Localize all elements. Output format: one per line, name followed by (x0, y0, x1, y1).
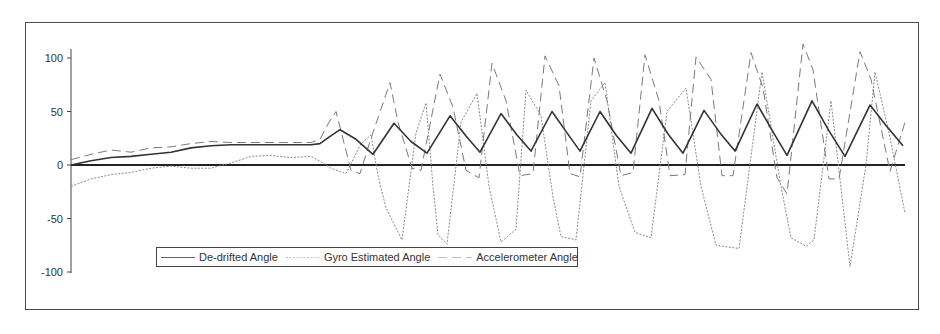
y-tick-label: 0 (57, 159, 63, 171)
y-tick-label: 50 (51, 106, 63, 118)
y-tick-label: -50 (47, 213, 63, 225)
legend-item-gyro: Gyro Estimated Angle (286, 251, 430, 263)
legend-solid-line-icon (161, 256, 195, 258)
legend-dashed-line-icon (438, 256, 472, 258)
legend-label: De-drifted Angle (199, 251, 278, 263)
series-accelerometer-angle (71, 44, 905, 194)
legend-label: Accelerometer Angle (476, 251, 578, 263)
y-axis-ticks: 100500-50-100 (41, 52, 71, 278)
y-tick-label: 100 (45, 52, 63, 64)
legend-item-accelerometer: Accelerometer Angle (438, 251, 578, 263)
series-gyro-estimated-angle (71, 72, 905, 267)
y-tick-label: -100 (41, 266, 63, 278)
series-layer (71, 44, 905, 267)
legend-dotted-line-icon (286, 256, 320, 258)
plot-area: 100500-50-100 (0, 0, 940, 334)
legend-label: Gyro Estimated Angle (324, 251, 430, 263)
chart-legend: De-drifted Angle Gyro Estimated Angle Ac… (156, 247, 578, 267)
legend-item-dedrifted: De-drifted Angle (161, 251, 278, 263)
